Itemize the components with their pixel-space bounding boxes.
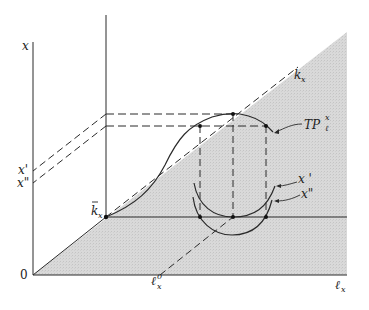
point-base-left (198, 215, 202, 219)
point-tp-left (198, 124, 202, 128)
x-axis-label: x (22, 39, 29, 53)
production-diagram: x 0 x' x" k x k x TP x ℓ x ' x" ℓ 0 x ℓ … (0, 0, 369, 310)
svg-text:x: x (301, 75, 306, 84)
k-bar-label: k x (91, 202, 103, 220)
svg-text:x: x (98, 211, 103, 220)
svg-text:x: x (325, 113, 330, 122)
svg-text:x: x (157, 282, 162, 291)
origin-label: 0 (20, 268, 28, 282)
svg-text:TP: TP (304, 118, 321, 132)
lx0-label: ℓ 0 x (151, 272, 162, 291)
point-base-right (264, 215, 268, 219)
isoquant-x-double-prime-label: x" (301, 187, 313, 201)
point-tp-right (264, 124, 268, 128)
isoquant-x-prime-label: x ' (298, 172, 312, 186)
point-base-center (231, 215, 235, 219)
svg-text:ℓ: ℓ (335, 278, 340, 292)
x-prime-label: x' (18, 163, 28, 177)
x-prime-diagonal-dashed (33, 114, 106, 171)
svg-text:x: x (341, 285, 346, 294)
point-peak (231, 112, 235, 116)
lx-axis-label: ℓ x (335, 278, 346, 294)
svg-text:0: 0 (157, 272, 162, 281)
svg-text:ℓ: ℓ (151, 274, 156, 288)
point-k-bar (104, 215, 108, 219)
x-double-prime-diagonal-dashed (33, 126, 106, 183)
x-double-prime-label: x" (17, 176, 29, 190)
